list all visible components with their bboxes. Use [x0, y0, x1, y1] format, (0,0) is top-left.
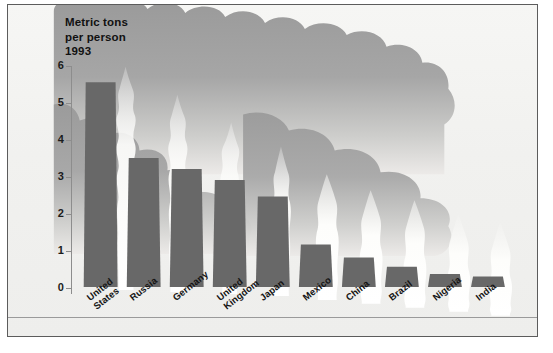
bar [256, 197, 290, 287]
bottom-rule [8, 317, 537, 318]
bar [213, 180, 247, 287]
chart-frame: Metric tons per person 1993 0123456 Unit… [7, 4, 538, 337]
chart-figure: Metric tons per person 1993 0123456 Unit… [0, 0, 553, 353]
bar [127, 158, 161, 287]
bar [170, 169, 204, 287]
plot-area: Metric tons per person 1993 0123456 Unit… [8, 5, 537, 336]
bar [84, 82, 118, 287]
